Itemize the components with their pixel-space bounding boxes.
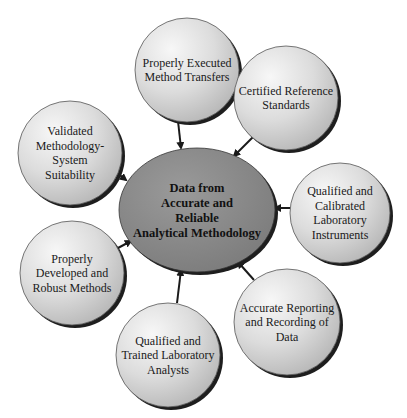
node-label-line: Certified Reference [239,84,333,98]
node-lab-instruments: Qualified andCalibratedLaboratoryInstrum… [290,163,393,266]
node-system-suitability: ValidatedMethodology-SystemSuitability [18,101,125,208]
arrow-reference-standards [234,137,253,156]
node-label-line: Developed and [36,266,108,280]
node-label-line: Qualified and [307,184,373,198]
node-label-line: Instruments [312,228,369,242]
node-label-line: Laboratory [313,213,366,227]
node-label-line: Standards [262,98,310,112]
node-label-line: Methodology- [36,139,105,153]
node-robust-methods: ProperlyDeveloped andRobust Methods [20,221,127,328]
node-lab-analysts: Qualified andTrained LaboratoryAnalysts [116,303,223,410]
node-label-line: Calibrated [315,199,365,213]
node-label-line: Qualified and [135,334,201,348]
node-reporting-recording: Accurate Reportingand Recording ofData [234,269,343,378]
center-label-line: Analytical Methodology [133,226,262,240]
node-label-line: Validated [47,124,92,138]
node-method-transfers: Properly ExecutedMethod Transfers [135,18,242,125]
node-reference-standards: Certified ReferenceStandards [234,46,341,153]
arrow-lab-analysts [177,270,181,303]
node-label-line: Properly Executed [143,56,232,70]
node-label-line: Trained Laboratory [121,348,214,362]
node-label-line: Properly [51,252,92,266]
node-label-line: System [52,153,88,167]
center-label-line: Accurate and [161,196,233,210]
node-label-line: Analysts [147,363,189,377]
node-label-line: and Recording of [245,315,328,329]
node-label-line: Data [276,330,299,344]
center-label-line: Data from [170,181,226,195]
center-label-line: Reliable [175,211,219,225]
center-node: Data fromAccurate andReliableAnalytical … [119,148,278,275]
arrow-robust-methods [118,241,131,248]
diagram-canvas: Properly ExecutedMethod TransfersCertifi… [0,0,407,418]
node-label-line: Accurate Reporting [240,301,334,315]
node-label-line: Method Transfers [144,70,229,84]
node-label-line: Suitability [45,168,95,182]
node-label-line: Robust Methods [32,281,111,295]
arrow-method-transfers [178,121,181,148]
